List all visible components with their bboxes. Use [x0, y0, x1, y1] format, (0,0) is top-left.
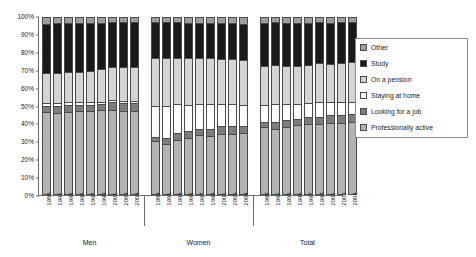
bar-segment	[240, 105, 247, 126]
bar-segment	[65, 23, 72, 71]
legend-item[interactable]: Other	[360, 43, 464, 52]
x-axis-tick-text: 1999	[210, 192, 216, 205]
bar[interactable]	[315, 17, 324, 195]
bar[interactable]	[304, 17, 313, 195]
bar-segment	[131, 67, 138, 100]
bar[interactable]	[53, 17, 62, 195]
bar[interactable]	[173, 17, 182, 195]
bar[interactable]	[206, 17, 215, 195]
bar[interactable]	[75, 17, 84, 195]
legend-item[interactable]: Study	[360, 59, 464, 68]
bar-segment	[196, 135, 203, 194]
bar[interactable]	[282, 17, 291, 195]
bar-segment	[98, 23, 105, 69]
x-axis-tick-label: 1999	[314, 198, 323, 232]
bar-segment	[327, 64, 334, 103]
x-axis-tick-label: 2004	[347, 198, 356, 232]
bar-segment	[152, 141, 159, 194]
x-axis-tick-label: 1995	[292, 198, 301, 232]
bar-segment	[163, 144, 170, 194]
bar-segment	[261, 66, 268, 105]
x-axis-tick-text: 1995	[297, 192, 303, 205]
bar[interactable]	[97, 17, 106, 195]
bar[interactable]	[337, 17, 346, 195]
bar-segment	[207, 104, 214, 129]
legend-item[interactable]: Staying at home	[360, 91, 464, 100]
x-label-group: 198919911993199519971999200120032004	[258, 198, 357, 232]
bar-segment	[120, 67, 127, 100]
bar-segment	[272, 129, 279, 194]
bar[interactable]	[130, 17, 139, 195]
x-axis-tick-text: 2001	[221, 192, 227, 205]
legend-item-label: Looking for a job	[371, 107, 421, 116]
bar-segment	[338, 22, 345, 62]
bar[interactable]	[184, 17, 193, 195]
bar[interactable]	[293, 17, 302, 195]
bar-segment	[109, 22, 116, 67]
bar-segment	[76, 111, 83, 194]
x-axis-tick-label: 2003	[336, 198, 345, 232]
x-axis-tick-label: 2003	[227, 198, 236, 232]
x-axis-tick-label: 1993	[172, 198, 181, 232]
bar[interactable]	[239, 17, 248, 195]
bar-segment	[218, 104, 225, 126]
bar[interactable]	[162, 17, 171, 195]
bar-segment	[196, 104, 203, 129]
y-axis-tick-mark	[36, 196, 39, 197]
bar-segment	[185, 58, 192, 105]
y-axis-tick-label: 10%	[21, 175, 34, 182]
bar-segment	[272, 104, 279, 122]
x-axis-tick-text: 1989	[155, 192, 161, 205]
bar[interactable]	[86, 17, 95, 195]
bar[interactable]	[260, 17, 269, 195]
y-axis-tick-label: 20%	[21, 157, 34, 164]
legend-item-label: Staying at home	[371, 91, 420, 100]
x-axis-tick-label: 2003	[118, 198, 127, 232]
bar-segment	[109, 110, 116, 194]
bar[interactable]	[151, 17, 160, 195]
bar-segment	[305, 124, 312, 194]
bar-segment	[229, 59, 236, 104]
x-axis-tick-label: 1991	[52, 198, 61, 232]
bar-group-women	[150, 17, 249, 195]
bar-segment	[76, 72, 83, 103]
bar-segment	[163, 58, 170, 106]
bar[interactable]	[217, 17, 226, 195]
bar-segment	[174, 104, 181, 133]
x-axis-tick-text: 2003	[123, 192, 129, 205]
legend-item[interactable]: Looking for a job	[360, 107, 464, 116]
x-axis-tick-label: 1991	[161, 198, 170, 232]
x-axis-labels: 1989199119931995199719992001200320041989…	[38, 198, 343, 232]
bar[interactable]	[195, 17, 204, 195]
y-axis-tick-label: 60%	[21, 85, 34, 92]
bar[interactable]	[119, 17, 128, 195]
bar-segment	[120, 111, 127, 194]
bar[interactable]	[108, 17, 117, 195]
x-axis-tick-label: 1997	[85, 198, 94, 232]
legend-item-label: Other	[371, 43, 388, 52]
x-axis-tick-label: 1993	[281, 198, 290, 232]
bar-segment	[218, 59, 225, 104]
legend-item[interactable]: On a pension	[360, 75, 464, 84]
bar-segment	[283, 104, 290, 120]
bar[interactable]	[326, 17, 335, 195]
bar-segment	[261, 105, 268, 122]
y-axis-tick-label: 0%	[25, 193, 34, 200]
bar-segment	[65, 112, 72, 194]
bar-segment	[327, 123, 334, 194]
bar-segment	[120, 103, 127, 111]
bar[interactable]	[271, 17, 280, 195]
bar-segment	[185, 105, 192, 131]
bar-segment	[109, 67, 116, 100]
bar-segment	[240, 60, 247, 105]
bar-segment	[65, 105, 72, 112]
x-axis-tick-label: 1999	[96, 198, 105, 232]
legend-item[interactable]: Professionally active	[360, 123, 464, 132]
bar[interactable]	[228, 17, 237, 195]
x-axis-tick-text: 1997	[90, 192, 96, 205]
group-gap	[140, 17, 150, 195]
x-axis-tick-text: 1997	[199, 192, 205, 205]
bar[interactable]	[64, 17, 73, 195]
bar[interactable]	[42, 17, 51, 195]
x-axis-tick-label: 1995	[183, 198, 192, 232]
